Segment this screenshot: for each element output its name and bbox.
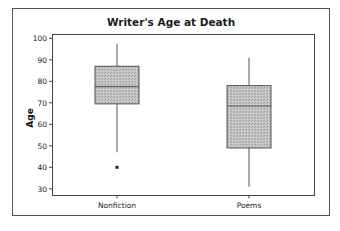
chart-title: Writer's Age at Death	[107, 16, 235, 28]
y-tick-label: 50	[37, 142, 47, 151]
outlier-point	[116, 166, 119, 169]
y-axis-label: Age	[25, 108, 35, 128]
x-tick-label: Poems	[237, 201, 262, 210]
iqr-box	[95, 66, 139, 104]
y-tick-label: 80	[37, 77, 47, 86]
outer-frame	[13, 9, 330, 216]
y-tick-label: 30	[37, 185, 47, 194]
y-tick-label: 70	[37, 99, 47, 108]
y-tick-label: 40	[37, 163, 47, 172]
y-tick-label: 60	[37, 120, 47, 129]
x-tick-label: Nonfiction	[98, 201, 136, 210]
box-plot-chart: Writer's Age at Death 30405060708090100 …	[0, 0, 340, 231]
iqr-box	[227, 86, 271, 148]
y-tick-label: 100	[33, 34, 48, 43]
y-tick-label: 90	[37, 56, 47, 65]
